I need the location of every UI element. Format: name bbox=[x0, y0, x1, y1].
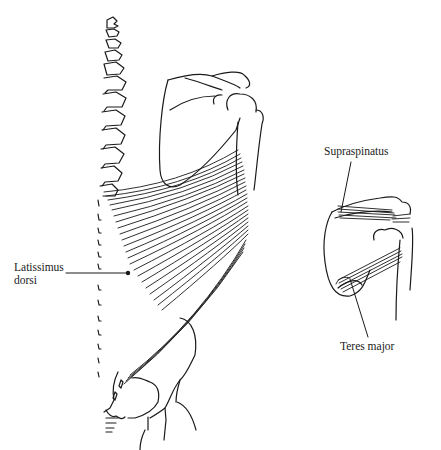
pelvis bbox=[104, 318, 196, 450]
dashed-midline bbox=[98, 200, 101, 377]
latissimus-dorsi-muscle bbox=[104, 150, 248, 384]
latissimus-dorsi-label: Latissimus dorsi bbox=[14, 261, 64, 287]
latissimus-label-line2: dorsi bbox=[14, 274, 64, 287]
teres-major-label: Teres major bbox=[340, 340, 394, 353]
supraspinatus-label: Supraspinatus bbox=[324, 145, 389, 158]
anatomy-illustration bbox=[0, 0, 441, 450]
teres-major-muscle bbox=[336, 248, 402, 292]
latissimus-leader-dot bbox=[126, 271, 129, 274]
spine bbox=[100, 17, 126, 196]
latissimus-label-line1: Latissimus bbox=[14, 261, 64, 274]
teres-major-leader-line bbox=[350, 279, 368, 337]
